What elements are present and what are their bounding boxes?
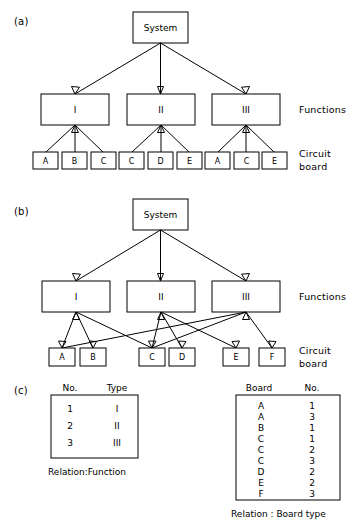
function-table-cell-0-0: 1 [67, 404, 73, 414]
panel-a-function-label-1: I [74, 105, 77, 115]
function-table-header-1: Type [106, 383, 128, 393]
panel-a-link-system-f3 [161, 43, 247, 94]
function-relation-table: No. Type 1 I 2 II 3 III Relation:Functio… [48, 383, 138, 477]
panel-a-circuit-row-label-line1: Circuit [299, 148, 331, 159]
panel-a-label: (a) [14, 16, 29, 27]
board-table-frame [236, 395, 340, 500]
panel-b-board-label-5: E [233, 353, 238, 362]
function-table-cell-1-0: 2 [67, 421, 73, 431]
panel-b-link-system-f1 [76, 230, 161, 281]
panel-b-board-label-1: A [59, 353, 65, 362]
function-table-frame [51, 395, 138, 458]
board-table-cell-4-0: C [258, 445, 264, 455]
board-table-cell-8-1: 3 [309, 489, 315, 499]
function-table-cell-2-0: 3 [67, 438, 73, 448]
board-table-cell-6-1: 2 [309, 467, 315, 477]
board-table-cell-0-1: 1 [309, 401, 315, 411]
board-table-cell-3-1: 1 [309, 434, 315, 444]
panel-b-link-f3-a [62, 312, 246, 348]
panel-a-arrow-f3 [242, 87, 250, 95]
board-table-cell-0-0: A [258, 401, 265, 411]
panel-a-board-label-6: E [187, 157, 192, 166]
panel-c-label: (c) [14, 385, 28, 396]
board-table-cell-6-0: D [258, 467, 265, 477]
board-table-cell-7-0: E [258, 478, 264, 488]
function-table-cell-2-1: III [113, 438, 121, 448]
board-table-header-0: Board [246, 383, 272, 393]
panel-b-board-label-2: B [90, 353, 96, 362]
panel-a-board-label-1: A [43, 157, 49, 166]
panel-b-function-label-3: III [242, 292, 250, 302]
panel-a-functions-row-label: Functions [299, 104, 346, 115]
board-table-header-1: No. [305, 383, 320, 393]
function-table-cell-1-1: II [114, 421, 119, 431]
panel-a-board-label-8: C [244, 157, 250, 166]
function-table-caption: Relation:Function [48, 467, 126, 477]
panel-b-label: (b) [14, 206, 29, 217]
function-table-cell-0-1: I [116, 404, 119, 414]
panel-a-link-system-f1 [75, 43, 161, 94]
panel-a-link-f1-b3 [75, 125, 103, 152]
board-table-cell-3-0: C [258, 434, 264, 444]
panel-b-arrow-f1 [73, 274, 81, 282]
board-table-cell-2-1: 1 [309, 423, 315, 433]
board-table-cell-1-1: 3 [309, 412, 315, 422]
panel-a-system-label: System [144, 23, 178, 33]
panel-b-board-label-3: C [149, 353, 155, 362]
panel-b-function-label-1: I [75, 292, 78, 302]
board-table-cell-4-1: 2 [309, 445, 315, 455]
panel-b-circuit-row-label-line2: board [299, 358, 327, 369]
panel-a-function-label-3: III [242, 105, 250, 115]
panel-a-link-f2-b3 [161, 125, 189, 152]
panel-b-functions-row-label: Functions [299, 291, 346, 302]
panel-a-board-label-7: A [215, 157, 221, 166]
figure-container: (a) System I II III [0, 0, 363, 529]
board-table-cell-5-1: 3 [309, 456, 315, 466]
panel-b-board-label-6: F [270, 353, 275, 362]
panel-b-board-label-4: D [179, 353, 185, 362]
board-table-cell-5-0: C [258, 456, 264, 466]
panel-a-function-label-2: II [158, 105, 163, 115]
board-table-cell-7-1: 2 [309, 478, 315, 488]
panel-b-system-label: System [144, 210, 178, 220]
panel-a-arrow-f1 [72, 87, 80, 95]
panel-b-circuit-row-label-line1: Circuit [299, 345, 331, 356]
board-type-relation-table: Board No. A 1 A 3 B 1 C 1 [231, 383, 340, 519]
panel-a: (a) System I II III [14, 12, 346, 172]
panel-b-link-f3-f [246, 312, 272, 348]
board-table-caption: Relation : Board type [231, 509, 326, 519]
board-table-cell-8-0: F [258, 489, 263, 499]
panel-b-function-label-2: II [158, 292, 163, 302]
panel-a-board-label-9: E [272, 157, 277, 166]
panel-a-board-label-2: B [72, 157, 78, 166]
panel-b: (b) System I II III [14, 199, 346, 369]
function-table-header-0: No. [63, 383, 78, 393]
panel-b-link-f3-c [152, 312, 246, 348]
panel-c: (c) No. Type 1 I 2 II 3 III Relatio [14, 383, 340, 519]
panel-a-link-f2-b1 [132, 125, 161, 152]
panel-a-board-label-5: D [157, 157, 163, 166]
panel-a-board-label-4: C [129, 157, 135, 166]
panel-b-link-system-f3 [161, 230, 247, 281]
panel-a-circuit-row-label-line2: board [299, 161, 327, 172]
panel-a-link-f3-b1 [218, 125, 246, 152]
panel-a-board-label-3: C [101, 157, 107, 166]
board-table-cell-1-0: A [258, 412, 265, 422]
board-table-cell-2-0: B [258, 423, 264, 433]
panel-a-link-f1-b1 [46, 125, 75, 152]
panel-b-arrow-f3 [242, 274, 250, 282]
panel-a-link-f3-b3 [246, 125, 274, 152]
figure-svg: (a) System I II III [0, 0, 363, 529]
